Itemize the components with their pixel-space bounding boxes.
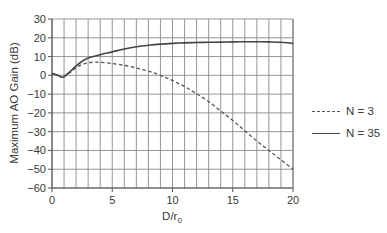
legend: N = 3 N = 35 <box>312 100 380 144</box>
x-tick-label: 5 <box>109 194 115 206</box>
x-tick-label: 20 <box>287 194 299 206</box>
grid-lines <box>52 19 293 188</box>
axes <box>48 19 293 192</box>
legend-label: N = 35 <box>346 127 380 139</box>
y-tick-label: 0 <box>40 69 46 81</box>
y-axis-title: Maximum AO Gain (dB) <box>8 42 20 164</box>
y-tick-label: −40 <box>27 144 46 156</box>
legend-item-n35: N = 35 <box>312 122 380 144</box>
dashed-line-swatch-icon <box>312 111 340 112</box>
solid-line-swatch-icon <box>312 133 340 134</box>
x-axis-title: D/r0 <box>162 210 182 225</box>
x-tick-label: 0 <box>49 194 55 206</box>
y-tick-label: 30 <box>34 13 46 25</box>
legend-label: N = 3 <box>346 105 374 117</box>
y-tick-label: −20 <box>27 107 46 119</box>
y-tick-label: −60 <box>27 182 46 194</box>
y-tick-label: 20 <box>34 32 46 44</box>
y-tick-label: 10 <box>34 51 46 63</box>
x-tick-label: 15 <box>227 194 239 206</box>
y-tick-label: −10 <box>27 88 46 100</box>
y-tick-label: −50 <box>27 163 46 175</box>
legend-item-n3: N = 3 <box>312 100 380 122</box>
x-tick-label: 10 <box>166 194 178 206</box>
y-tick-label: −30 <box>27 126 46 138</box>
